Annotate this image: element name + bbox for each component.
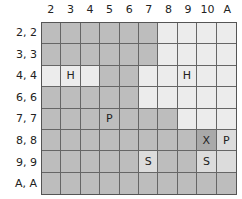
- grid-cell: [81, 130, 100, 151]
- column-header: 6: [119, 3, 139, 17]
- grid-cell: [197, 23, 216, 44]
- grid-cell: [217, 151, 236, 172]
- grid-cell: [217, 173, 236, 194]
- grid-cell: S: [139, 151, 158, 172]
- grid-cell: [197, 109, 216, 130]
- grid-cell: [139, 23, 158, 44]
- grid-cell: [100, 44, 119, 65]
- grid-cell: [178, 44, 197, 65]
- grid-cell: [178, 151, 197, 172]
- column-header: 9: [178, 3, 198, 17]
- grid-cell: [120, 23, 139, 44]
- grid-cell: [158, 109, 177, 130]
- grid-cell: [120, 44, 139, 65]
- grid-cell: P: [217, 130, 236, 151]
- grid-cell: S: [197, 151, 216, 172]
- grid-cell: [120, 87, 139, 108]
- grid-cell: [61, 23, 80, 44]
- column-header: A: [217, 3, 237, 17]
- grid-cell: [81, 109, 100, 130]
- row-header: 7, 7: [0, 108, 37, 130]
- grid-cell: [61, 151, 80, 172]
- column-header: 4: [80, 3, 100, 17]
- grid-cell: [61, 130, 80, 151]
- column-header: 5: [100, 3, 120, 17]
- grid-cell: [178, 87, 197, 108]
- grid-cell: [120, 151, 139, 172]
- grid-cell: [42, 151, 61, 172]
- grid-cell: P: [100, 109, 119, 130]
- grid-cell: [100, 23, 119, 44]
- grid-cell: [81, 87, 100, 108]
- grid-cell: [178, 109, 197, 130]
- row-header: 4, 4: [0, 65, 37, 87]
- column-header: 7: [139, 3, 159, 17]
- grid-cell: [61, 173, 80, 194]
- grid-cell: [139, 130, 158, 151]
- grid-cell: [42, 87, 61, 108]
- grid-cell: [120, 109, 139, 130]
- grid-cell: [139, 87, 158, 108]
- grid-cell: [61, 87, 80, 108]
- column-header: 2: [41, 3, 61, 17]
- grid-cell: [100, 130, 119, 151]
- grid-cell: [217, 87, 236, 108]
- grid-cell: [81, 44, 100, 65]
- grid-cell: [42, 23, 61, 44]
- grid-cell: [139, 173, 158, 194]
- grid-cell: [120, 173, 139, 194]
- grid-cell: [42, 130, 61, 151]
- grid-cell: [61, 44, 80, 65]
- row-header: 2, 2: [0, 22, 37, 44]
- grid-cell: [139, 66, 158, 87]
- grid-cell: [100, 66, 119, 87]
- grid-cell: [42, 66, 61, 87]
- grid-cell: [178, 130, 197, 151]
- grid-cell: [81, 151, 100, 172]
- grid-cell: [197, 173, 216, 194]
- grid-cell: [178, 23, 197, 44]
- column-header: 10: [198, 3, 218, 17]
- grid-cell: [217, 109, 236, 130]
- grid-cell: [100, 87, 119, 108]
- grid-cell: [158, 130, 177, 151]
- grid-cell: [217, 66, 236, 87]
- grid-cell: H: [61, 66, 80, 87]
- grid-cell: [81, 173, 100, 194]
- grid-cell: [100, 151, 119, 172]
- grid-cell: [197, 66, 216, 87]
- grid-cell: [158, 151, 177, 172]
- column-header: 8: [159, 3, 179, 17]
- grid-cell: [139, 44, 158, 65]
- grid-cell: [42, 44, 61, 65]
- grid-cell: [197, 44, 216, 65]
- grid-cell: [81, 66, 100, 87]
- row-header: 8, 8: [0, 130, 37, 152]
- row-header: 6, 6: [0, 87, 37, 109]
- grid-cell: [158, 173, 177, 194]
- grid-cell: [42, 173, 61, 194]
- grid-cell: [217, 44, 236, 65]
- grid-cell: [197, 87, 216, 108]
- grid-cell: [158, 44, 177, 65]
- grid-cell: [158, 87, 177, 108]
- row-header: 3, 3: [0, 44, 37, 66]
- grid-cell: [120, 130, 139, 151]
- grid-cell: [100, 173, 119, 194]
- strategy-grid: HHPXPSS: [41, 22, 237, 195]
- grid-cell: [217, 23, 236, 44]
- grid-cell: [81, 23, 100, 44]
- grid-cell: [61, 109, 80, 130]
- grid-cell: [158, 23, 177, 44]
- grid-cell: [178, 173, 197, 194]
- grid-cell: X: [197, 130, 216, 151]
- row-header: 9, 9: [0, 152, 37, 174]
- grid-cell: [158, 66, 177, 87]
- column-header: 3: [61, 3, 81, 17]
- grid-cell: H: [178, 66, 197, 87]
- grid-cell: [120, 66, 139, 87]
- row-header: A, A: [0, 173, 37, 195]
- grid-cell: [42, 109, 61, 130]
- grid-cell: [139, 109, 158, 130]
